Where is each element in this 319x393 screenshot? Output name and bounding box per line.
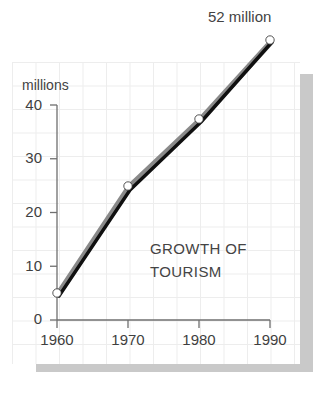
- data-point-1960: [53, 289, 61, 297]
- chart-title-line-2: TOURISM: [150, 263, 222, 280]
- y-axis-label: millions: [22, 77, 69, 93]
- y-tick-label-0: 0: [16, 310, 42, 327]
- y-tick-label-20: 20: [16, 203, 42, 220]
- y-tick-label-40: 40: [16, 96, 42, 113]
- x-tick-label-1980: 1980: [177, 331, 221, 348]
- data-point-1990: [266, 36, 274, 44]
- annotation-52-million: 52 million: [208, 8, 271, 25]
- data-point-1970: [124, 182, 132, 190]
- y-tick-label-30: 30: [16, 149, 42, 166]
- data-point-1980: [195, 115, 203, 123]
- x-tick-label-1960: 1960: [35, 331, 79, 348]
- data-line-ribbon-edge: [59, 42, 272, 296]
- x-tick-label-1970: 1970: [106, 331, 150, 348]
- chart-title-line-1: GROWTH OF: [150, 240, 247, 257]
- chart-figure: 52 million millions 40 30 20 10 0 1960 1…: [0, 0, 319, 393]
- y-tick-label-10: 10: [16, 257, 42, 274]
- x-tick-label-1990: 1990: [248, 331, 292, 348]
